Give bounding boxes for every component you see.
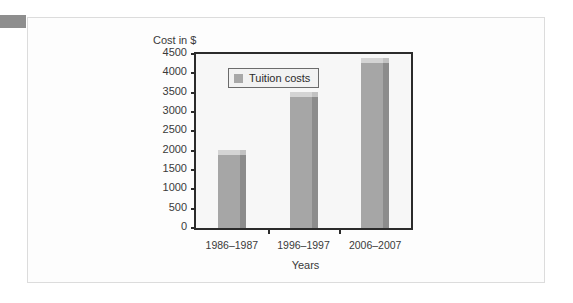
bar	[290, 97, 312, 228]
y-axis-tick-mark	[191, 111, 196, 113]
y-axis-tick-mark	[191, 72, 196, 74]
y-axis-tick-mark	[191, 92, 196, 94]
y-axis-tick-label: 2000	[163, 143, 187, 155]
bar-side-face	[240, 155, 246, 228]
bar-top-face	[361, 58, 383, 63]
legend-color-swatch	[234, 74, 243, 83]
y-axis-tick-mark	[191, 208, 196, 210]
x-axis-tick-label: 1986–1987	[206, 239, 259, 251]
y-axis-tick-mark	[191, 150, 196, 152]
x-axis-tick-label: 1996–1997	[277, 239, 330, 251]
y-axis-tick-label: 2500	[163, 123, 187, 135]
bar-top-corner-face	[312, 92, 318, 97]
bar-top-face	[218, 150, 240, 155]
y-axis-tick-label: 1000	[163, 181, 187, 193]
bar-top-corner-face	[383, 58, 389, 63]
y-axis-tick-label: 3000	[163, 104, 187, 116]
bar-side-face	[312, 97, 318, 228]
plot-frame: 050010001500200025003000350040004500 Tui…	[194, 52, 413, 230]
x-axis-tick-label: 2006–2007	[349, 239, 402, 251]
bar-top-corner-face	[240, 150, 246, 155]
x-axis-title: Years	[196, 259, 415, 271]
figure-card: Cost in $ 050010001500200025003000350040…	[27, 17, 545, 283]
bar-front-face	[290, 97, 312, 228]
y-axis-tick-label: 500	[169, 201, 187, 213]
page-corner-tab	[0, 15, 26, 28]
y-axis-tick-label: 1500	[163, 162, 187, 174]
y-axis-tick-label: 0	[181, 220, 187, 232]
bar	[218, 155, 240, 228]
bar-chart: Cost in $ 050010001500200025003000350040…	[28, 18, 546, 284]
y-axis-tick-mark	[191, 188, 196, 190]
legend-label: Tuition costs	[249, 72, 310, 84]
y-axis-tick-label: 3500	[163, 85, 187, 97]
y-axis-tick-mark	[191, 227, 196, 229]
chart-legend: Tuition costs	[228, 68, 319, 88]
y-axis-tick-mark	[191, 130, 196, 132]
bar-top-face	[290, 92, 312, 97]
y-axis-tick-label: 4000	[163, 65, 187, 77]
bar-front-face	[218, 155, 240, 228]
bar	[361, 63, 383, 228]
y-axis-tick-label: 4500	[163, 46, 187, 58]
bar-side-face	[383, 63, 389, 228]
y-axis-title: Cost in $	[153, 34, 196, 46]
y-axis-tick-mark	[191, 169, 196, 171]
x-axis-tick-mark	[268, 228, 270, 234]
bar-front-face	[361, 63, 383, 228]
y-axis-tick-mark	[191, 53, 196, 55]
x-axis-tick-mark	[339, 228, 341, 234]
